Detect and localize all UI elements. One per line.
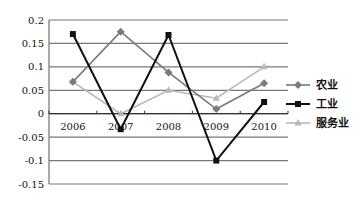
line-chart: 0.20.150.10.050-0.05-0.1-0.15 2006200720… (0, 0, 357, 198)
square-marker (70, 31, 76, 37)
legend-item-工业: 工业 (286, 97, 338, 111)
gridlines (49, 20, 288, 184)
diamond-marker (260, 79, 268, 87)
square-marker (213, 158, 219, 164)
legend-label: 服务业 (316, 116, 349, 130)
x-tick-label: 2008 (156, 121, 181, 132)
y-axis-ticks: 0.20.150.10.050-0.05-0.1-0.15 (18, 15, 44, 190)
series-line (73, 34, 264, 161)
triangle-marker (165, 86, 172, 93)
y-tick-label: 0.15 (22, 38, 44, 49)
square-marker (118, 126, 124, 132)
legend-item-服务业: 服务业 (286, 116, 349, 130)
y-tick-label: -0.05 (18, 132, 44, 143)
x-tick-label: 2010 (251, 121, 276, 132)
y-tick-label: -0.1 (25, 155, 44, 166)
x-tick-label: 2009 (204, 121, 229, 132)
y-tick-label: -0.15 (18, 179, 44, 190)
triangle-marker (261, 63, 268, 69)
legend-label: 农业 (315, 78, 338, 92)
square-marker (295, 101, 301, 107)
y-tick-label: 0.1 (28, 61, 44, 72)
y-tick-label: 0.05 (22, 85, 44, 96)
diamond-marker (294, 81, 302, 89)
y-tick-label: 0.2 (28, 15, 44, 26)
data-series (69, 28, 268, 164)
square-marker (261, 99, 267, 105)
series-农业 (69, 28, 268, 113)
square-marker (166, 32, 172, 38)
x-tick-label: 2006 (60, 121, 85, 132)
legend-label: 工业 (316, 97, 338, 111)
y-tick-label: 0 (38, 108, 44, 119)
legend: 农业工业服务业 (286, 78, 349, 130)
x-axis-ticks: 20062007200820092010 (49, 111, 288, 132)
legend-item-农业: 农业 (286, 78, 338, 92)
